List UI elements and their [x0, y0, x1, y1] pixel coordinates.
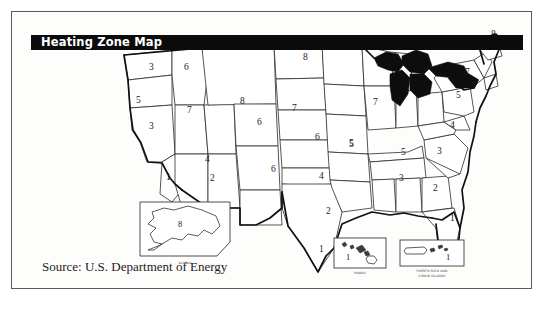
- zone-label-illinois: 7: [373, 97, 378, 107]
- zone-label-washington: 3: [149, 62, 154, 72]
- zone-label-texas-south: 2: [326, 206, 331, 216]
- zone-label-new-mexico: 6: [271, 164, 276, 174]
- inset-zone-label-hawaii: 1: [346, 252, 350, 262]
- zone-label-texas-north: 4: [319, 171, 324, 181]
- zone-label-kansas: 6: [315, 132, 320, 142]
- zone-label-virginia: 4: [450, 120, 455, 130]
- zone-label-nebraska: 7: [292, 103, 297, 113]
- zone-label-missouri: 5: [349, 139, 354, 149]
- inset-zone-label-puerto-rico: 1: [446, 252, 450, 262]
- zone-label-florida: 1: [450, 213, 455, 223]
- zone-label-tennessee: 5: [401, 147, 406, 157]
- zone-label-georgia: 2: [433, 183, 438, 193]
- zone-label-texas-tip: 1: [319, 244, 324, 254]
- inset-caption-puerto-rico-line2: VIRGIN ISLANDS: [418, 274, 445, 278]
- inset-caption-puerto-rico-line1: PUERTO RICO AND: [416, 269, 447, 273]
- zone-label-new-york: 7: [465, 67, 470, 77]
- source-attribution: Source: U.S. Department of Energy: [42, 259, 227, 275]
- zone-label-nevada: 7: [187, 105, 192, 115]
- zone-label-pennsylvania: 5: [456, 90, 461, 100]
- inset-alaska: 8 ALASKA: [140, 202, 230, 265]
- zone-label-oregon: 5: [136, 95, 141, 105]
- zone-label-utah: 4: [205, 154, 210, 164]
- zone-label-montana: 8: [240, 96, 245, 106]
- figure-title-chip: Heating Zone Map: [31, 35, 171, 50]
- zone-label-alabama: 3: [399, 173, 404, 183]
- map-illustration: 3 6 5 3 7 8 4 1 2 6 6 8 7 6 5 4 2 1 7 5: [12, 12, 531, 288]
- zone-label-idaho: 6: [184, 62, 189, 72]
- zone-label-southern-california: 1: [166, 172, 171, 182]
- us-heating-zone-map-svg: 3 6 5 3 7 8 4 1 2 6 6 8 7 6 5 4 2 1 7 5: [12, 12, 530, 287]
- zone-label-arizona: 2: [210, 173, 215, 183]
- inset-puerto-rico: 1 PUERTO RICO AND VIRGIN ISLANDS: [400, 240, 464, 278]
- inset-hawaii: 1 HAWAII: [334, 238, 386, 275]
- inset-caption-hawaii: HAWAII: [354, 271, 366, 275]
- zone-label-northern-california: 3: [149, 121, 154, 131]
- inset-zone-label-alaska: 8: [178, 219, 182, 229]
- zone-label-colorado: 6: [257, 117, 262, 127]
- page-title: Heating Zone Map: [41, 37, 162, 49]
- zone-label-north-dakota: 8: [303, 52, 308, 62]
- zone-label-north-carolina: 3: [437, 146, 442, 156]
- figure-card: 3 6 5 3 7 8 4 1 2 6 6 8 7 6 5 4 2 1 7 5: [11, 11, 532, 289]
